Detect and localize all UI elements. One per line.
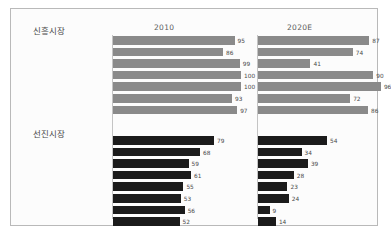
bar-value-label: 52: [183, 218, 190, 227]
bar-value-label: 79: [217, 137, 224, 146]
bar-slot: 56: [113, 206, 241, 215]
bar-value-label: 53: [184, 195, 191, 204]
bar-value-label: 96: [384, 83, 391, 92]
bar-value-label: 28: [297, 172, 304, 181]
bar: [258, 148, 302, 157]
bar-slot: 23: [258, 182, 386, 191]
bar: [113, 71, 241, 80]
bar-value-label: 54: [330, 137, 337, 146]
bar-slot: 93: [113, 94, 241, 103]
bar-value-label: 90: [376, 72, 383, 81]
bar-value-label: 100: [244, 83, 255, 92]
bar-value-label: 34: [305, 149, 312, 158]
bar-slot: 100: [113, 82, 241, 91]
column-header-2010: 2010: [154, 23, 174, 32]
bar-slot: 24: [258, 194, 386, 203]
bar-slot: 34: [258, 148, 386, 157]
bar: [113, 206, 185, 215]
bar-value-label: 74: [356, 49, 363, 58]
bar: [258, 159, 308, 168]
bar-value-label: 95: [238, 37, 245, 46]
bar-slot: 95: [113, 36, 241, 45]
bar-slot: 68: [113, 148, 241, 157]
bar-slot: 79: [113, 136, 241, 145]
bar-slot: 59: [113, 159, 241, 168]
bar: [113, 171, 191, 180]
bar: [258, 94, 350, 103]
bar-value-label: 86: [226, 49, 233, 58]
bar-slot: 97: [113, 106, 241, 115]
bar: [258, 182, 287, 191]
bar: [113, 194, 181, 203]
bar-value-label: 99: [243, 60, 250, 69]
bar-slot: 61: [113, 171, 241, 180]
bar: [258, 171, 294, 180]
bar-value-label: 68: [203, 149, 210, 158]
bar-slot: 41: [258, 59, 386, 68]
bar: [113, 94, 232, 103]
bar: [113, 48, 223, 57]
bar-slot: 39: [258, 159, 386, 168]
bar-slot: 52: [113, 217, 241, 226]
group-title-emerging-market: 신흥시장: [33, 24, 65, 36]
bar: [258, 106, 368, 115]
bar-value-label: 59: [192, 160, 199, 169]
bar: [113, 82, 241, 91]
bar: [258, 59, 310, 68]
bar-value-label: 55: [186, 183, 193, 192]
bar-slot: 87: [258, 36, 386, 45]
bar: [258, 217, 276, 226]
bar-value-label: 97: [240, 107, 247, 116]
bar: [113, 182, 183, 191]
bar: [113, 106, 237, 115]
bar-slot: 55: [113, 182, 241, 191]
bar-value-label: 24: [292, 195, 299, 204]
bar-slot: 100: [113, 71, 241, 80]
bar-slot: 9: [258, 206, 386, 215]
bar-slot: 14: [258, 217, 386, 226]
bar-slot: 28: [258, 171, 386, 180]
bar-slot: 86: [113, 48, 241, 57]
chart-frame: 2010 2020E 신흥시장 선진시장 아르헨티나9587브라질8674중국9…: [10, 8, 378, 226]
bar-value-label: 9: [273, 207, 277, 216]
bar-value-label: 41: [313, 60, 320, 69]
bar-value-label: 56: [188, 207, 195, 216]
bar-slot: 90: [258, 71, 386, 80]
column-header-2020e: 2020E: [287, 23, 312, 32]
group-title-developed-market: 선진시장: [33, 127, 65, 139]
bar: [113, 59, 240, 68]
bar-value-label: 61: [194, 172, 201, 181]
bar-slot: 99: [113, 59, 241, 68]
bar-slot: 74: [258, 48, 386, 57]
bar: [113, 159, 189, 168]
bar: [258, 48, 353, 57]
bar-slot: 53: [113, 194, 241, 203]
bar: [113, 136, 214, 145]
bar: [258, 136, 327, 145]
bar: [113, 148, 200, 157]
bar-value-label: 87: [372, 37, 379, 46]
bar-slot: 72: [258, 94, 386, 103]
bar: [258, 82, 381, 91]
bar-value-label: 93: [235, 95, 242, 104]
bar-value-label: 72: [353, 95, 360, 104]
bar: [258, 206, 270, 215]
bar: [258, 71, 373, 80]
bar: [113, 36, 235, 45]
bar: [258, 36, 369, 45]
bar-value-label: 100: [244, 72, 255, 81]
bar: [113, 217, 180, 226]
bar-slot: 86: [258, 106, 386, 115]
bar-value-label: 23: [290, 183, 297, 192]
bar-value-label: 86: [371, 107, 378, 116]
bar: [258, 194, 289, 203]
bar-value-label: 39: [311, 160, 318, 169]
bar-slot: 96: [258, 82, 386, 91]
bar-slot: 54: [258, 136, 386, 145]
bar-value-label: 14: [279, 218, 286, 227]
